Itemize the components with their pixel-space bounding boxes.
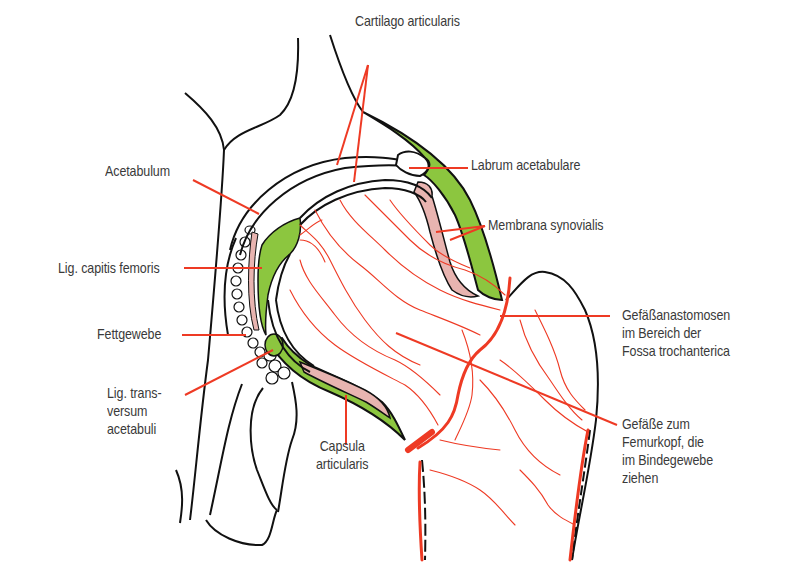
label-acetabulum: Acetabulum <box>105 162 170 180</box>
leader-acetabulum <box>193 180 259 214</box>
label-gefaessanastomosen: Gefäßanastomosen im Bereich der Fossa tr… <box>622 306 730 360</box>
label-gefaesse-zum-femurkopf: Gefäße zum Femurkopf, die im Bindegewebe… <box>622 415 713 487</box>
label-capsula-articularis: Capsula articularis <box>313 437 371 473</box>
label-lig-transversum-acetabuli: Lig. trans- versum acetabuli <box>107 384 162 438</box>
label-lig-capitis-femoris: Lig. capitis femoris <box>58 259 160 277</box>
leader-cartilago-1 <box>337 65 368 165</box>
label-fettgewebe: Fettgewebe <box>97 325 161 343</box>
leader-cartilago-2 <box>354 65 368 182</box>
label-cartilago-articularis: Cartilago articularis <box>355 12 460 30</box>
leader-lines <box>182 65 617 445</box>
hip-joint-illustration <box>0 0 801 573</box>
label-labrum-acetabulare: Labrum acetabulare <box>471 156 580 174</box>
hip-joint-diagram: Cartilago articularis Labrum acetabulare… <box>0 0 801 573</box>
leader-lig-transversum <box>185 350 273 395</box>
label-membrana-synovialis: Membrana synovialis <box>488 216 603 234</box>
